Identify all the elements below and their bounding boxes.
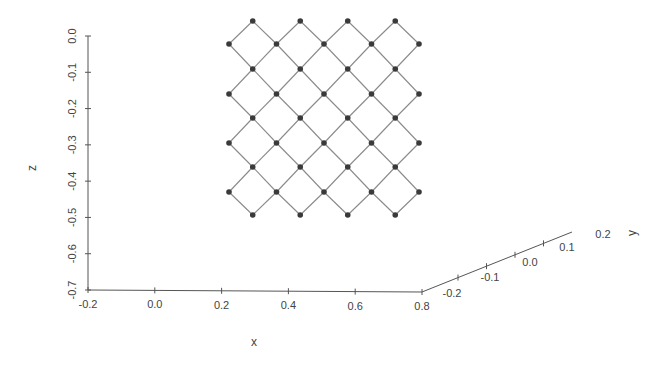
lattice-edge — [229, 21, 253, 44]
lattice-node — [392, 18, 398, 24]
lattice-edge — [372, 118, 396, 143]
lattice-edge — [253, 192, 277, 215]
x-tick-label: 0.8 — [414, 300, 429, 312]
y-tick-label: -0.2 — [443, 287, 462, 299]
lattice-edge — [372, 143, 396, 167]
lattice-edge — [395, 69, 419, 94]
lattice-edge — [348, 118, 372, 143]
lattice-node — [297, 115, 303, 121]
lattice-edge — [253, 44, 277, 69]
lattice-edge — [395, 118, 419, 143]
y-tick-label: 0.0 — [522, 256, 537, 268]
z-tick-label: -0.1 — [66, 63, 78, 82]
lattice-edge — [395, 167, 419, 192]
lattice-edge — [372, 69, 396, 94]
lattice-edge — [348, 21, 372, 44]
lattice-edge — [348, 143, 372, 167]
lattice-node — [321, 41, 327, 47]
lattice-edge — [277, 167, 301, 192]
lattice-edge — [395, 21, 419, 44]
lattice-node — [345, 115, 351, 121]
z-tick-label: -0.2 — [66, 99, 78, 118]
tick-marks — [85, 36, 544, 295]
lattice-node — [345, 164, 351, 170]
lattice-edge — [253, 167, 277, 192]
lattice-node — [321, 140, 327, 146]
lattice-edge — [229, 94, 253, 118]
lattice-node — [416, 189, 422, 195]
lattice-node — [416, 91, 422, 97]
lattice-node — [392, 164, 398, 170]
lattice-edge — [277, 192, 301, 215]
z-tick-label: -0.3 — [66, 135, 78, 154]
lattice-node — [392, 115, 398, 121]
z-tick-label: -0.4 — [66, 172, 78, 191]
x-axis-title: x — [251, 335, 257, 349]
z-tick-label: -0.7 — [66, 281, 78, 300]
lattice-node — [274, 41, 280, 47]
lattice-node — [369, 189, 375, 195]
lattice-node — [392, 66, 398, 72]
lattice-edge — [253, 21, 277, 44]
y-tick-label: 0.1 — [559, 241, 574, 253]
lattice-node — [345, 18, 351, 24]
lattice-node — [250, 115, 256, 121]
3d-plot: 0.0-0.1-0.2-0.3-0.4-0.5-0.6-0.7-0.20.00.… — [0, 0, 672, 367]
x-tick-label: 0.6 — [348, 300, 363, 312]
lattice-edge — [229, 69, 253, 94]
lattice-node — [250, 66, 256, 72]
lattice-edge — [300, 69, 324, 94]
lattice-edge — [324, 21, 348, 44]
lattice-edge — [229, 143, 253, 167]
lattice-node — [250, 164, 256, 170]
lattice-node — [226, 91, 232, 97]
lattice-node — [274, 140, 280, 146]
lattice-edge — [395, 94, 419, 118]
lattice-edge — [253, 143, 277, 167]
lattice-node — [369, 91, 375, 97]
lattice-node — [416, 140, 422, 146]
lattice-edge — [395, 192, 419, 215]
y-tick-label: 0.2 — [595, 228, 610, 240]
lattice-edge — [348, 192, 372, 215]
tick-labels: 0.0-0.1-0.2-0.3-0.4-0.5-0.6-0.7-0.20.00.… — [66, 28, 611, 312]
lattice-edge — [324, 192, 348, 215]
lattice-edge — [277, 118, 301, 143]
lattice-node — [297, 18, 303, 24]
lattice-edge — [324, 44, 348, 69]
lattice-edge — [348, 44, 372, 69]
lattice-edge — [277, 69, 301, 94]
lattice-edge — [372, 192, 396, 215]
lattice-edge — [253, 118, 277, 143]
y-axis-line — [422, 232, 572, 292]
lattice-node — [416, 41, 422, 47]
lattice-node — [250, 18, 256, 24]
lattice-edge — [324, 69, 348, 94]
lattice-node — [297, 164, 303, 170]
lattice-edge — [277, 94, 301, 118]
lattice-node — [321, 91, 327, 97]
axes — [88, 36, 572, 292]
x-tick-label: 0.0 — [147, 298, 162, 310]
lattice-node — [274, 189, 280, 195]
lattice-node — [297, 66, 303, 72]
lattice-node — [250, 212, 256, 218]
lattice-node — [392, 212, 398, 218]
lattice-node — [321, 189, 327, 195]
x-axis-line — [88, 290, 422, 292]
lattice-node — [226, 41, 232, 47]
lattice-node — [297, 212, 303, 218]
lattice-edge — [395, 44, 419, 69]
lattice-edges — [229, 21, 419, 215]
lattice-node — [345, 212, 351, 218]
lattice-edge — [348, 69, 372, 94]
lattice-node — [226, 140, 232, 146]
lattice-node — [369, 140, 375, 146]
z-tick-label: 0.0 — [66, 28, 78, 43]
x-tick-label: 0.4 — [281, 299, 296, 311]
z-axis-title: z — [25, 165, 39, 171]
lattice-edge — [300, 167, 324, 192]
lattice-edge — [324, 118, 348, 143]
lattice-edge — [300, 44, 324, 69]
lattice-edge — [300, 94, 324, 118]
